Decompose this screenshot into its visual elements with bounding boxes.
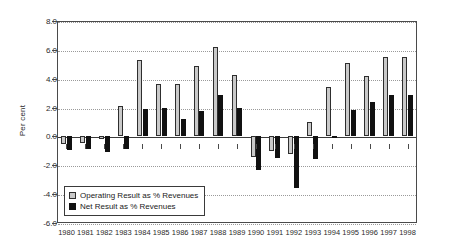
bar-net-1984 [143, 109, 148, 136]
bar-operating-1983 [118, 106, 123, 136]
bar-operating-1984 [137, 60, 142, 136]
chart-legend: Operating Result as % Revenues Net Resul… [64, 186, 205, 216]
x-tick-mark [294, 144, 295, 149]
bar-group [209, 21, 228, 223]
y-tick-label: 6.0 [11, 45, 57, 54]
bar-group [228, 21, 247, 223]
x-tick-label-1987: 1987 [191, 228, 208, 237]
y-axis-ticks: 8.06.04.02.00.0-2.0-4.0-6.0 [0, 21, 57, 223]
y-tick-label: 4.0 [11, 74, 57, 83]
x-tick-label-1981: 1981 [77, 228, 94, 237]
x-tick-label-1988: 1988 [210, 228, 227, 237]
bar-group [379, 21, 398, 223]
legend-swatch-icon-operating [69, 192, 76, 199]
gridline--6.0 [58, 224, 416, 225]
bar-chart: Per cent 8.06.04.02.00.0-2.0-4.0-6.0 198… [0, 0, 459, 250]
bar-operating-1981 [80, 136, 85, 142]
bar-operating-1987 [194, 66, 199, 136]
x-tick-mark [123, 144, 124, 149]
x-tick-mark [389, 144, 390, 149]
x-tick-mark [161, 144, 162, 149]
x-tick-mark [237, 144, 238, 149]
bar-net-1997 [389, 95, 394, 136]
y-tick-mark [52, 223, 57, 224]
bar-operating-1986 [175, 84, 180, 137]
x-tick-label-1998: 1998 [399, 228, 416, 237]
x-tick-label-1985: 1985 [153, 228, 170, 237]
x-tick-mark [370, 144, 371, 149]
x-tick-mark [142, 144, 143, 149]
bar-net-1998 [408, 95, 413, 137]
legend-item-net-result: Net Result as % Revenues [69, 201, 198, 212]
y-tick-label: 2.0 [11, 103, 57, 112]
x-tick-mark [104, 144, 105, 149]
bar-operating-1989 [232, 75, 237, 136]
bar-net-1994 [332, 136, 337, 138]
x-tick-label-1986: 1986 [172, 228, 189, 237]
x-tick-mark [180, 144, 181, 149]
bar-net-1985 [162, 108, 167, 136]
x-tick-label-1989: 1989 [229, 228, 246, 237]
bar-operating-1988 [213, 47, 218, 136]
x-tick-label-1983: 1983 [115, 228, 132, 237]
bar-operating-1993 [307, 122, 312, 136]
x-tick-mark [408, 144, 409, 149]
x-tick-label-1982: 1982 [96, 228, 113, 237]
bar-group [322, 21, 341, 223]
x-axis-ticks [57, 144, 417, 149]
x-tick-label-1991: 1991 [267, 228, 284, 237]
y-tick-label: -4.0 [11, 190, 57, 199]
x-tick-label-1995: 1995 [342, 228, 359, 237]
bar-operating-1980 [61, 136, 66, 143]
bar-operating-1996 [364, 76, 369, 137]
x-tick-mark [66, 144, 67, 149]
y-tick-label: 8.0 [11, 17, 57, 26]
x-tick-mark [313, 144, 314, 149]
y-tick-label: -6.0 [11, 219, 57, 228]
bar-net-1995 [351, 110, 356, 136]
legend-item-operating-result: Operating Result as % Revenues [69, 190, 198, 201]
bar-group [246, 21, 265, 223]
x-tick-label-1994: 1994 [323, 228, 340, 237]
bar-operating-1995 [345, 63, 350, 137]
x-tick-label-1993: 1993 [304, 228, 321, 237]
bar-operating-1985 [156, 84, 161, 136]
bar-net-1988 [218, 95, 223, 137]
x-tick-mark [275, 144, 276, 149]
x-axis-labels: 1980198119821983198419851986198719881989… [57, 228, 417, 242]
bar-net-1990 [256, 136, 261, 169]
x-tick-mark [85, 144, 86, 149]
bar-group [265, 21, 284, 223]
x-tick-label-1992: 1992 [285, 228, 302, 237]
bar-group [360, 21, 379, 223]
x-tick-label-1997: 1997 [380, 228, 397, 237]
x-tick-label-1990: 1990 [248, 228, 265, 237]
x-tick-label-1984: 1984 [134, 228, 151, 237]
y-tick-label: 0.0 [11, 132, 57, 141]
legend-label-operating: Operating Result as % Revenues [80, 191, 198, 200]
bar-operating-1997 [383, 57, 388, 136]
x-tick-mark [199, 144, 200, 149]
y-tick-label: -2.0 [11, 161, 57, 170]
bar-net-1987 [199, 111, 204, 136]
x-tick-label-1980: 1980 [58, 228, 75, 237]
x-tick-mark [332, 144, 333, 149]
x-tick-mark [256, 144, 257, 149]
x-tick-mark [218, 144, 219, 149]
bar-group [341, 21, 360, 223]
x-tick-label-1996: 1996 [361, 228, 378, 237]
bar-net-1989 [237, 108, 242, 136]
bar-operating-1994 [326, 87, 331, 136]
bar-group [284, 21, 303, 223]
legend-label-net: Net Result as % Revenues [80, 202, 176, 211]
legend-swatch-icon-net [69, 203, 76, 210]
x-tick-mark [351, 144, 352, 149]
bar-net-1996 [370, 102, 375, 137]
bar-operating-1998 [402, 57, 407, 136]
bar-group [398, 21, 417, 223]
bar-group [303, 21, 322, 223]
bar-operating-1982 [99, 136, 104, 138]
bar-net-1986 [181, 119, 186, 136]
